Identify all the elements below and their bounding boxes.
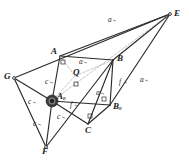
vertex-label-G-text: G (4, 71, 11, 81)
mark-A (61, 60, 65, 64)
vertex-label-F-text: F (42, 146, 48, 156)
vertex-label-A0: A0 (57, 92, 66, 101)
vertex-label-G: G (4, 72, 11, 81)
edge-label-a-inner: a (96, 89, 100, 97)
edge-label-tick-a-AB (84, 62, 87, 63)
vertex-label-E-text: E (174, 8, 180, 18)
vertex-label-A0-subscript: 0 (63, 96, 66, 101)
vertex-dot-G (13, 77, 16, 80)
edge-label-c-AA0: c (45, 78, 48, 86)
vertex-label-Q-text: Q (73, 67, 80, 77)
edge-label-f-B: f (119, 78, 121, 86)
vertex-label-E: E (174, 9, 180, 18)
edge-label-tick-a-inner (101, 93, 104, 94)
vertex-label-B0: B0 (113, 102, 122, 111)
segment-A-B (60, 56, 113, 60)
edge-label-a-right: a (140, 76, 144, 84)
edge-label-tick-a-right (145, 80, 148, 81)
diagram-canvas (0, 0, 189, 163)
vertex-label-F: F (42, 147, 48, 156)
vertex-dot-layer (13, 13, 172, 149)
vertex-label-C: C (85, 126, 91, 135)
edge-label-tick-c-AA0 (50, 82, 53, 83)
edge-label-c-lower: c (57, 113, 60, 121)
edge-label-tick-c-A0F (38, 124, 41, 125)
vertex-label-A: A (51, 47, 57, 56)
vertex-label-B: B (117, 54, 123, 63)
edge-label-c-A0F: c (33, 120, 36, 128)
edge-label-a-top: a (108, 16, 112, 24)
edge-label-tick-c-GA0 (33, 102, 36, 103)
vertex-label-A-text: A (51, 46, 57, 56)
geometric-diagram: EABGQA0B0CF aaaaccccff (0, 0, 189, 163)
mark-B0 (102, 97, 106, 101)
vertex-label-Q: Q (73, 68, 80, 77)
vertex-label-B-text: B (117, 53, 123, 63)
edge-label-c-GA0: c (28, 98, 31, 106)
A0-hub-ring-2 (50, 99, 54, 103)
edge-label-f-A0: f (70, 101, 72, 109)
vertex-label-B0-subscript: 0 (119, 106, 122, 111)
segment-G-E (14, 14, 170, 78)
edge-label-tick-c-lower (62, 117, 65, 118)
edge-label-a-AB: a (79, 58, 83, 66)
edge-label-tick-a-top (113, 20, 116, 21)
vertex-label-C-text: C (85, 125, 91, 135)
vertex-dot-E (169, 13, 172, 16)
